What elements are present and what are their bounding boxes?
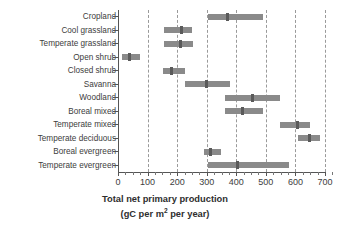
category-label-savanna: Savanna (4, 78, 116, 92)
category-tick (113, 16, 118, 17)
category-label-cool-grassland: Cool grassland (4, 24, 116, 38)
major-tick-400 (236, 172, 237, 176)
range-bar (280, 122, 310, 128)
minor-tick (170, 172, 171, 175)
category-tick (113, 124, 118, 125)
category-label-boreal-evergreen: Boreal evergreen (4, 145, 116, 159)
chart-row: Savanna (0, 78, 330, 92)
category-tick (113, 30, 118, 31)
minor-tick (273, 172, 274, 175)
category-tick (113, 111, 118, 112)
median-marker (128, 53, 131, 61)
major-tick-700 (325, 172, 326, 176)
chart-row: Temperate evergreen (0, 159, 330, 173)
major-tick-100 (148, 172, 149, 176)
minor-tick (199, 172, 200, 175)
minor-tick (125, 172, 126, 175)
minor-tick (155, 172, 156, 175)
category-label-temperate-mixed: Temperate mixed (4, 118, 116, 132)
median-marker (296, 121, 299, 129)
range-bar (163, 68, 185, 74)
category-label-closed-shrub: Closed shrub (4, 64, 116, 78)
x-tick-label-100: 100 (133, 177, 163, 187)
median-marker (241, 107, 244, 115)
major-tick-300 (207, 172, 208, 176)
median-marker (205, 80, 208, 88)
minor-tick (162, 172, 163, 175)
major-tick-600 (295, 172, 296, 176)
minor-tick (214, 172, 215, 175)
category-label-temperate-evergreen: Temperate evergreen (4, 159, 116, 173)
x-axis-title-line2: (gC per m2 per year) (0, 207, 330, 219)
x-axis-title-line1: Total net primary production (0, 194, 330, 204)
range-bar (208, 162, 289, 168)
chart-row: Boreal evergreen (0, 145, 330, 159)
minor-tick (222, 172, 223, 175)
x-tick-label-300: 300 (192, 177, 222, 187)
chart-row: Temperate deciduous (0, 132, 330, 146)
chart-row: Temperate mixed (0, 118, 330, 132)
category-label-cropland: Cropland (4, 10, 116, 24)
category-tick (113, 84, 118, 85)
category-label-temperate-deciduous: Temperate deciduous (4, 132, 116, 146)
chart-row: Woodland (0, 91, 330, 105)
chart-row: Boreal mixed (0, 105, 330, 119)
category-tick (113, 43, 118, 44)
x-tick-label-200: 200 (162, 177, 192, 187)
minor-tick (133, 172, 134, 175)
range-bar (122, 54, 140, 60)
minor-tick (281, 172, 282, 175)
median-marker (209, 148, 212, 156)
range-bar (164, 27, 192, 33)
median-marker (251, 94, 254, 102)
range-bar (225, 108, 263, 114)
median-marker (226, 13, 229, 21)
minor-tick (288, 172, 289, 175)
minor-tick (258, 172, 259, 175)
major-tick-500 (266, 172, 267, 176)
x-tick-label-0: 0 (103, 177, 133, 187)
chart-row: Closed shrub (0, 64, 330, 78)
x-axis-title-units-prefix: (gC per m (121, 209, 164, 219)
category-tick (113, 97, 118, 98)
median-marker (308, 134, 311, 142)
minor-tick (332, 172, 333, 175)
category-label-open-shrub: Open shrub (4, 51, 116, 65)
chart-row: Open shrub (0, 51, 330, 65)
median-marker (179, 40, 182, 48)
category-tick (113, 151, 118, 152)
minor-tick (318, 172, 319, 175)
category-tick (113, 70, 118, 71)
major-tick-200 (177, 172, 178, 176)
chart-row: Cool grassland (0, 24, 330, 38)
x-tick-label-700: 700 (310, 177, 337, 187)
category-label-woodland: Woodland (4, 91, 116, 105)
range-bar (208, 14, 263, 20)
minor-tick (251, 172, 252, 175)
x-tick-label-400: 400 (221, 177, 251, 187)
x-tick-label-600: 600 (280, 177, 310, 187)
minor-tick (310, 172, 311, 175)
minor-tick (229, 172, 230, 175)
chart-row: Temperate grassland (0, 37, 330, 51)
minor-tick (140, 172, 141, 175)
minor-tick (303, 172, 304, 175)
chart-row: Cropland (0, 10, 330, 24)
category-label-temperate-grassland: Temperate grassland (4, 37, 116, 51)
category-tick (113, 138, 118, 139)
x-tick-label-500: 500 (251, 177, 281, 187)
median-marker (180, 26, 183, 34)
minor-tick (244, 172, 245, 175)
category-tick (113, 57, 118, 58)
range-bar (204, 149, 221, 155)
minor-tick (185, 172, 186, 175)
median-marker (170, 67, 173, 75)
minor-tick (192, 172, 193, 175)
major-tick-0 (118, 172, 119, 176)
x-axis-title-units-suffix: per year) (168, 209, 210, 219)
category-tick (113, 165, 118, 166)
median-marker (236, 161, 239, 169)
category-label-boreal-mixed: Boreal mixed (4, 105, 116, 119)
